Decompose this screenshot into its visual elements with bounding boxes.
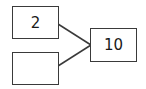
connector-top: [58, 24, 91, 45]
connector-bottom: [58, 45, 91, 66]
whole-box: 10: [90, 28, 137, 62]
part-box-top: 2: [12, 6, 59, 39]
part-box-bottom-empty[interactable]: [12, 52, 59, 85]
